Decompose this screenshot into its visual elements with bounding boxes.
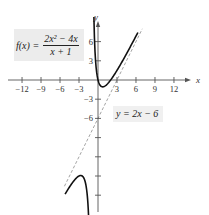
x-tick-label: −9 — [37, 84, 46, 94]
x-tick-label: 12 — [170, 84, 179, 94]
function-curve-left-branch — [65, 176, 89, 215]
x-tick-label: −3 — [74, 84, 83, 94]
y-tick-label: 3 — [89, 56, 93, 66]
plot-area: xy−12−9−6−33691263−3−6 — [0, 0, 209, 215]
y-tick-label: −3 — [84, 94, 93, 104]
x-axis-label: x — [195, 75, 200, 85]
x-tick-label: 3 — [115, 84, 119, 94]
chart-root: f(x) = 2x² − 4x x + 1 y = 2x − 6 xy−12−9… — [0, 0, 209, 215]
x-tick-label: −12 — [15, 84, 28, 94]
x-tick-label: 9 — [153, 84, 157, 94]
asymptote-line — [64, 29, 142, 186]
x-tick-label: 6 — [134, 84, 138, 94]
x-tick-label: −6 — [55, 84, 64, 94]
x-axis-arrow-icon — [185, 78, 191, 82]
y-tick-label: −6 — [84, 113, 93, 123]
y-tick-label: 6 — [89, 37, 93, 47]
